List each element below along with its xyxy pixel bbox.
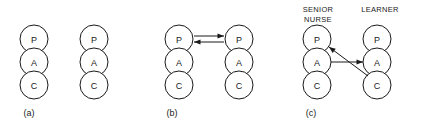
panel-label-b: (b) (167, 108, 178, 118)
ego-letter-parent: P (374, 35, 380, 45)
ego-letter-child: C (236, 81, 243, 91)
ego-state-b-right-c: C (225, 71, 253, 99)
panel-b: PACPAC(b) (165, 25, 253, 118)
ego-letter-child: C (91, 81, 98, 91)
ego-state-a-right-c: C (80, 71, 108, 99)
arrowhead-icon-c-response (329, 47, 336, 53)
ego-letter-adult: A (91, 58, 97, 68)
ego-column-b-right: PAC (225, 25, 253, 99)
role-label-c-right: LEARNER (361, 5, 399, 14)
ego-state-diagram: PACPAC(a)PACPAC(b)SENIORNURSEPACLEARNERP… (0, 0, 422, 132)
ego-column-a-right: PAC (80, 25, 108, 99)
transaction-b-stimulus (194, 33, 224, 38)
ego-letter-adult: A (31, 58, 37, 68)
arrowhead-icon-c-stimulus (357, 59, 364, 64)
arrowhead-icon-b-response (194, 39, 201, 44)
ego-letter-child: C (314, 81, 321, 91)
ego-letter-adult: A (314, 58, 320, 68)
ego-letter-parent: P (31, 35, 37, 45)
panel-a: PACPAC(a) (20, 25, 108, 118)
transaction-b-response (194, 39, 224, 44)
panel-c: SENIORNURSEPACLEARNERPAC(c) (303, 5, 399, 118)
panel-label-a: (a) (24, 108, 35, 118)
ego-state-a-left-c: C (20, 71, 48, 99)
ego-letter-parent: P (91, 35, 97, 45)
ego-state-c-left-c: C (303, 71, 331, 99)
ego-column-c-left: SENIORNURSEPAC (303, 5, 334, 99)
ego-letter-adult: A (374, 58, 380, 68)
ego-letter-parent: P (176, 35, 182, 45)
ego-letter-parent: P (236, 35, 242, 45)
ego-letter-child: C (31, 81, 38, 91)
diagram-canvas: PACPAC(a)PACPAC(b)SENIORNURSEPACLEARNERP… (0, 0, 422, 132)
ego-column-a-left: PAC (20, 25, 48, 99)
role-label-c-left: SENIORNURSE (303, 5, 334, 24)
ego-letter-child: C (176, 81, 183, 91)
ego-letter-adult: A (236, 58, 242, 68)
ego-letter-parent: P (314, 35, 320, 45)
arrowhead-icon-b-stimulus (218, 33, 225, 38)
ego-state-b-left-c: C (165, 71, 193, 99)
ego-column-c-right: LEARNERPAC (361, 5, 399, 99)
ego-letter-adult: A (176, 58, 182, 68)
panel-label-c: (c) (306, 108, 317, 118)
ego-letter-child: C (374, 81, 381, 91)
ego-column-b-left: PAC (165, 25, 193, 99)
